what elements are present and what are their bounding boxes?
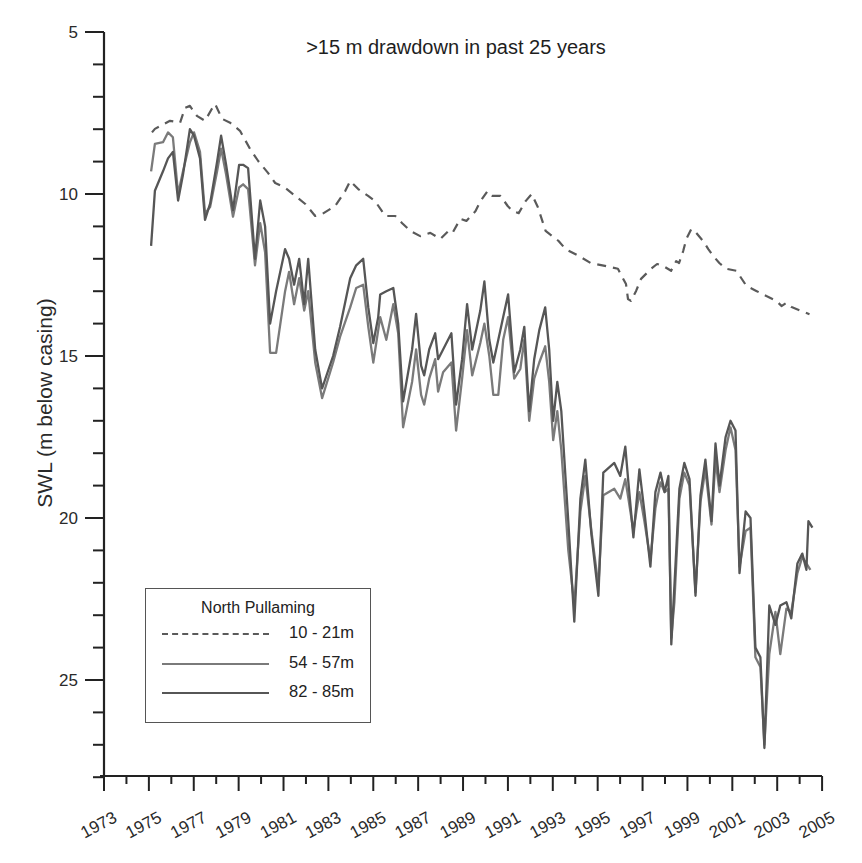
x-tick-label: 1981 [257,808,299,843]
legend-entry-82-85m: 82 - 85m [156,682,366,704]
legend-label: 82 - 85m [289,682,354,701]
y-axis-ticks: 510152025 [59,23,104,777]
x-tick-label: 1989 [437,808,479,843]
solid-line-swatch-icon [162,663,269,665]
legend-entry-10-21m: 10 - 21m [156,623,366,645]
legend: North Pullaming 10 - 21m 54 - 57m 82 - 8… [145,588,371,723]
x-tick-label: 1991 [481,808,523,843]
legend-label: 54 - 57m [289,653,354,672]
x-axis: 1973197519771979198119831985198719891991… [78,776,838,842]
y-axis: 510152025 SWL (m below casing) [33,23,104,777]
x-tick-label: 1995 [571,808,613,843]
x-tick-label: 1973 [78,808,120,843]
y-tick-label: 25 [59,671,78,690]
x-tick-label: 1993 [526,808,568,843]
x-tick-label: 1983 [302,808,344,843]
x-tick-label: 2005 [796,808,838,843]
y-tick-label: 5 [69,23,78,42]
x-tick-label: 1977 [167,808,209,843]
legend-entry-54-57m: 54 - 57m [156,653,366,675]
x-tick-label: 1987 [392,808,434,843]
solid-line-swatch-icon [162,692,269,694]
legend-title: North Pullaming [146,599,370,617]
x-axis-ticks: 1973197519771979198119831985198719891991… [78,776,838,842]
y-tick-label: 15 [59,347,78,366]
x-tick-label: 1997 [616,808,658,843]
x-tick-label: 2003 [751,808,793,843]
legend-label: 10 - 21m [289,623,354,642]
x-tick-label: 1975 [122,808,164,843]
y-tick-label: 10 [59,185,78,204]
x-tick-label: 1999 [661,808,703,843]
x-tick-label: 1985 [347,808,389,843]
dashed-line-swatch-icon [162,633,269,635]
x-tick-label: 2001 [706,808,748,843]
x-tick-label: 1979 [212,808,254,843]
y-axis-label: SWL (m below casing) [33,298,56,507]
y-tick-label: 20 [59,509,78,528]
chart-title: >15 m drawdown in past 25 years [306,36,606,58]
chart-canvas: >15 m drawdown in past 25 years 51015202… [0,0,862,863]
